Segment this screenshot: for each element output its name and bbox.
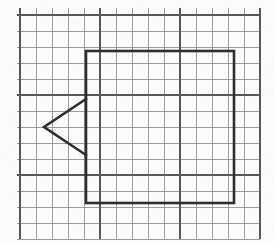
paper-speck (197, 153, 199, 155)
paper-speck (260, 132, 261, 133)
paper-speck (243, 51, 245, 53)
paper-speck (118, 78, 120, 80)
paper-speck (267, 172, 268, 173)
paper-speck (181, 30, 182, 31)
paper-speck (61, 197, 63, 199)
paper-speck (85, 24, 86, 25)
paper-speck (87, 47, 88, 48)
paper-speck (262, 240, 263, 241)
paper-speck (105, 70, 106, 71)
paper-speck (89, 183, 90, 184)
paper-speck (187, 91, 188, 92)
paper-speck (179, 174, 181, 176)
paper-speck (224, 5, 226, 7)
paper-speck (106, 59, 108, 61)
paper-speck (226, 96, 228, 98)
paper-speck (115, 20, 117, 22)
paper-speck (72, 212, 73, 213)
paper-speck (152, 172, 153, 173)
paper-speck (162, 168, 163, 169)
paper-speck (9, 164, 11, 166)
paper-speck (254, 225, 256, 227)
paper-speck (16, 220, 18, 222)
paper-speck (147, 15, 149, 17)
paper-speck (58, 22, 59, 23)
paper-speck (49, 201, 50, 202)
paper-speck (204, 70, 205, 71)
paper-speck (190, 35, 191, 36)
paper-speck (151, 170, 153, 172)
paper-speck (103, 158, 104, 159)
paper-speck (159, 21, 161, 23)
paper-speck (149, 216, 151, 218)
paper-speck (78, 154, 80, 156)
paper-speck (231, 108, 232, 109)
graph-paper-figure (0, 0, 275, 243)
paper-speck (99, 24, 100, 25)
paper-speck (135, 235, 136, 236)
paper-speck (69, 49, 70, 50)
paper-speck (28, 175, 29, 176)
paper-speck (93, 93, 94, 94)
paper-speck (129, 61, 130, 62)
paper-speck (207, 181, 209, 183)
paper-speck (67, 79, 69, 81)
paper-speck (208, 229, 209, 230)
paper-speck (200, 96, 201, 97)
paper-speck (231, 197, 233, 199)
paper-speck (271, 93, 272, 94)
paper-speck (72, 22, 74, 24)
paper-speck (156, 56, 157, 57)
paper-speck (242, 118, 243, 119)
paper-speck (160, 84, 161, 85)
paper-speck (127, 35, 128, 36)
paper-speck (158, 214, 159, 215)
paper-speck (168, 64, 170, 66)
paper-speck (212, 19, 214, 21)
paper-speck (57, 120, 58, 121)
paper-speck (146, 31, 147, 32)
paper-speck (43, 78, 44, 79)
paper-speck (259, 86, 261, 88)
paper-speck (47, 97, 48, 98)
paper-speck (165, 114, 166, 115)
paper-speck (174, 170, 175, 171)
paper-speck (111, 233, 113, 235)
paper-speck (62, 194, 64, 196)
paper-speck (175, 43, 176, 44)
paper-speck (270, 24, 271, 25)
paper-speck (174, 90, 176, 92)
paper-speck (128, 207, 130, 209)
paper-speck (199, 68, 200, 69)
paper-speck (103, 125, 104, 126)
paper-speck (256, 222, 257, 223)
paper-speck (154, 197, 156, 199)
paper-speck (61, 147, 62, 148)
paper-speck (272, 64, 274, 66)
paper-speck (216, 204, 218, 206)
paper-speck (113, 146, 114, 147)
paper-speck (49, 94, 50, 95)
paper-speck (108, 165, 110, 167)
paper-speck (28, 204, 29, 205)
paper-speck (132, 158, 133, 159)
paper-speck (251, 192, 253, 194)
paper-speck (87, 42, 88, 43)
paper-speck (263, 198, 265, 200)
paper-speck (141, 65, 142, 66)
paper-speck (100, 234, 102, 236)
paper-speck (95, 55, 96, 56)
paper-speck (83, 91, 84, 92)
paper-speck (240, 78, 241, 79)
paper-speck (94, 200, 95, 201)
paper-speck (2, 157, 3, 158)
paper-speck (131, 168, 132, 169)
paper-speck (75, 21, 77, 23)
paper-speck (247, 102, 248, 103)
paper-speck (95, 129, 97, 131)
paper-speck (222, 40, 223, 41)
paper-speck (203, 212, 204, 213)
paper-speck (224, 72, 226, 74)
paper-speck (11, 115, 12, 116)
paper-speck (14, 148, 16, 150)
